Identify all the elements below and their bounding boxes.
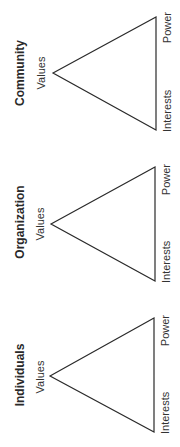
triangle-shape [50, 318, 154, 432]
vertex-label-interests: Interests [161, 89, 173, 132]
vertex-label-values: Values [34, 207, 46, 240]
panel-individuals: Individuals Values Power Interests [13, 315, 171, 434]
panel-community: Community Values Power Interests [13, 12, 173, 132]
triangle-diagram-canvas: Community Values Power Interests Organiz… [0, 0, 180, 447]
panel-title: Organization [13, 185, 27, 258]
triangle-shape [51, 167, 155, 281]
vertex-label-interests: Interests [160, 240, 172, 283]
vertex-label-values: Values [34, 360, 46, 393]
vertex-label-power: Power [161, 12, 173, 44]
vertex-label-values: Values [35, 56, 47, 89]
vertex-label-power: Power [159, 315, 171, 347]
triangle-shape [53, 17, 156, 130]
panel-title: Community [13, 40, 27, 106]
panel-organization: Organization Values Power Interests [13, 164, 172, 283]
panel-title: Individuals [13, 343, 27, 406]
vertex-label-interests: Interests [159, 391, 171, 434]
vertex-label-power: Power [160, 164, 172, 196]
